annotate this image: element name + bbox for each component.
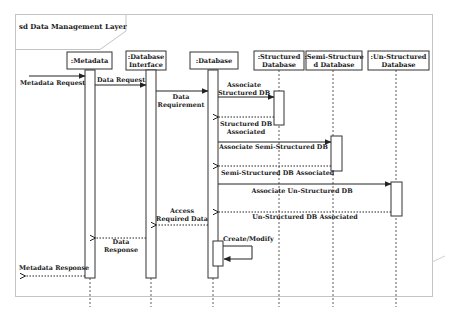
lifeline-label: :Database bbox=[196, 57, 233, 65]
message-label-structured-associated: Structured DB bbox=[220, 120, 273, 128]
lifeline-label: :Structured bbox=[258, 53, 301, 61]
lifeline-label-line2: d Database bbox=[313, 61, 354, 69]
lifeline-header-database: :Database bbox=[190, 52, 238, 69]
lifeline-label-line2: Database bbox=[262, 61, 296, 69]
message-label-structured-associated-2: Associated bbox=[226, 128, 266, 136]
lifeline-label: :Un-Structured bbox=[371, 53, 427, 61]
frame-title: sd Data Management Layer bbox=[19, 22, 127, 31]
message-label-data-response: Data bbox=[113, 238, 130, 246]
message-label-metadata-response: Metadata Response bbox=[19, 264, 89, 272]
message-label-metadata-request: Metadata Request bbox=[20, 79, 85, 87]
activation-semi-structured bbox=[331, 136, 342, 171]
message-label-associate-structured: Associate bbox=[226, 81, 261, 89]
lifeline-label-line2: Database bbox=[381, 61, 415, 69]
message-label-data-request: Data Request bbox=[97, 76, 145, 84]
message-label-associate-structured-2: Structured DB bbox=[218, 89, 271, 97]
message-label-data-response-2: Response bbox=[104, 246, 138, 254]
message-label-semi-associated: Semi-Structured DB Associated bbox=[221, 169, 335, 177]
message-label-access-required-data-2: Required Data bbox=[156, 215, 208, 223]
lifeline-header-db-interface: :Database Interface bbox=[126, 51, 166, 70]
lifeline-label: :Database bbox=[128, 53, 165, 61]
message-label-un-associated: Un-Structured DB Associated bbox=[252, 213, 358, 221]
message-label-create-modify: Create/Modify bbox=[223, 235, 274, 243]
frame-title-tab bbox=[16, 15, 127, 50]
message-arrow-create-modify bbox=[223, 246, 252, 259]
message-label-access-required-data: Access bbox=[169, 207, 194, 215]
message-label-associate-semi: Associate Semi-Structured DB bbox=[218, 143, 328, 151]
message-label-data-requirement: Data bbox=[173, 93, 190, 101]
activation-metadata bbox=[85, 70, 95, 278]
activation-db-interface bbox=[146, 70, 156, 278]
message-label-data-requirement-2: Requirement bbox=[158, 101, 205, 109]
lifeline-label: :Metadata bbox=[71, 57, 109, 65]
lifeline-label-line2: Interface bbox=[129, 61, 163, 69]
activation-structured bbox=[274, 91, 284, 125]
lifeline-header-structured: :Structured Database bbox=[254, 51, 304, 70]
lifeline-header-un-structured: :Un-Structured Database bbox=[368, 51, 429, 70]
lifeline-label: :Semi-Structure bbox=[304, 53, 363, 61]
message-label-associate-un: Associate Un-Structured DB bbox=[250, 187, 353, 195]
scan-artifact bbox=[432, 256, 445, 262]
lifeline-header-metadata: :Metadata bbox=[67, 52, 112, 69]
activation-database-self bbox=[213, 241, 223, 266]
lifeline-header-semi-structured: :Semi-Structure d Database bbox=[304, 51, 363, 70]
sequence-diagram: sd Data Management Layer :Metadata :Data… bbox=[0, 0, 449, 311]
activation-un-structured bbox=[391, 182, 402, 216]
